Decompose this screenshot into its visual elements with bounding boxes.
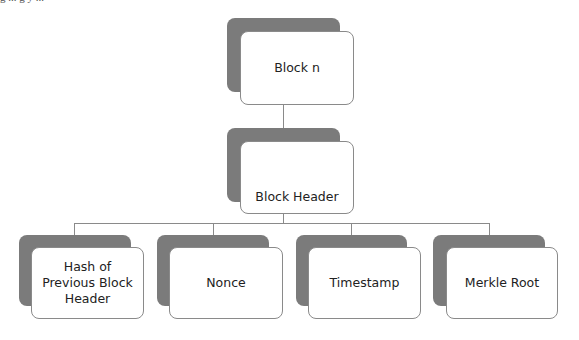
connector-line [213,223,214,235]
node-label: Block n [274,60,320,76]
node-label: Timestamp [330,275,400,291]
cut-off-caption: g ... g y ... [0,0,44,3]
node-card: Block n [240,31,354,105]
connector-line [283,105,284,128]
node-card: Hash of Previous Block Header [31,247,144,319]
connector-line [489,223,490,235]
node-card: Merkle Root [446,247,558,319]
node-card: Nonce [169,247,283,319]
node-card: Timestamp [308,247,421,319]
connector-line [74,223,75,235]
connector-bus [74,223,490,224]
node-label: Block Header [255,189,338,205]
node-card: Block Header [240,141,354,214]
connector-line [283,214,284,223]
connector-line [351,223,352,235]
node-label: Merkle Root [465,275,539,291]
node-label: Nonce [206,275,245,291]
node-label: Hash of Previous Block Header [40,259,136,307]
